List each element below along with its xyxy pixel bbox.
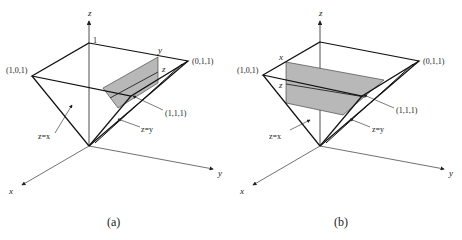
region-top-label: y — [157, 45, 162, 55]
caption-b: (b) — [334, 215, 348, 229]
y-axis-label: y — [217, 168, 222, 178]
region-mid-label: z — [278, 80, 283, 90]
x-axis-label: x — [239, 186, 244, 196]
edge-111 — [89, 96, 131, 146]
shaded-region — [286, 62, 384, 115]
z-axis-label: z — [318, 8, 323, 18]
plane-zy-label: z=y — [372, 125, 384, 134]
pointer-zy — [350, 119, 370, 127]
vertex-111-label: (1,1,1) — [396, 106, 418, 115]
panel-b: z x y (1,0,1) (0,1,1) (1,1,1) z=x z=y x … — [237, 8, 453, 229]
pointer-111 — [364, 95, 394, 108]
vertex-011-label: (0,1,1) — [423, 57, 445, 66]
z-axis-label: z — [87, 8, 92, 18]
figure-canvas: z x y 1 (1,0,1) (0,1,1) (1,1,1) z=x z=y … — [0, 0, 462, 240]
panel-a: z x y 1 (1,0,1) (0,1,1) (1,1,1) z=x z=y … — [6, 8, 222, 229]
region-mid-label: z — [161, 64, 166, 74]
y-axis-label: y — [448, 168, 453, 178]
vertex-011-label: (0,1,1) — [192, 57, 214, 66]
caption-a: (a) — [107, 215, 120, 229]
apex-label: 1 — [93, 36, 97, 45]
region-top-label: x — [278, 52, 283, 62]
y-axis — [89, 146, 213, 169]
vertex-101-label: (1,0,1) — [237, 66, 259, 75]
x-axis — [22, 146, 89, 185]
vertex-111-label: (1,1,1) — [165, 109, 187, 118]
plane-zx-label: z=x — [38, 132, 50, 141]
vertex-101-label: (1,0,1) — [6, 66, 28, 75]
y-axis — [320, 146, 444, 169]
pointer-111 — [133, 96, 163, 110]
plane-zx-label: z=x — [269, 132, 281, 141]
x-axis — [253, 146, 320, 185]
x-axis-label: x — [8, 186, 13, 196]
pointer-zx — [55, 105, 72, 133]
plane-zy-label: z=y — [141, 125, 153, 134]
pointer-zy — [118, 119, 140, 127]
shaded-region — [103, 57, 158, 108]
